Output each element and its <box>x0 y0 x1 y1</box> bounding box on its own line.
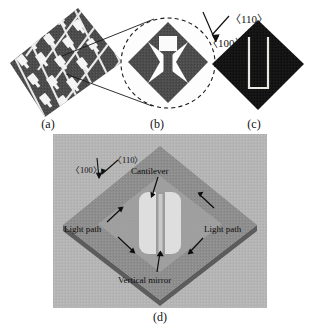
figure-vector-layer: 〈110〉 〈100〉 <box>0 0 319 331</box>
direction-label-100-c: 〈100〉 <box>207 37 246 49</box>
panel-d-etched-region <box>98 176 222 272</box>
panel-c-substrate <box>212 20 304 110</box>
panel-d-platform <box>63 146 257 300</box>
crystal-axes-c: 〈110〉 〈100〉 <box>203 12 268 49</box>
direction-label-110-d: 〈110〉 <box>113 155 143 165</box>
annotation-vertical-mirror: Vertical mirror <box>118 275 171 285</box>
figure-root: 〈110〉 〈100〉 <box>0 0 319 331</box>
panel-c-u-slot <box>249 37 268 88</box>
panel-b-quadrant-membranes <box>128 22 208 103</box>
panel-c-dark-diamond <box>212 20 304 110</box>
arrowhead-100-c <box>212 35 219 42</box>
callout-lines <box>62 19 154 106</box>
panel-a-array <box>6 0 134 132</box>
arrowhead-110-d <box>101 169 106 175</box>
panel-d-vertical-mirror-body <box>156 192 165 254</box>
annotation-cantilever: Cantilever <box>131 166 169 176</box>
panel-d-background <box>53 134 267 308</box>
crystal-axes-d: 〈100〉 〈110〉 <box>71 155 143 179</box>
panel-b-detail <box>121 18 215 108</box>
panel-caption-a: (a) <box>28 118 68 130</box>
panel-b-cantilever <box>159 36 177 75</box>
panel-d-released-structure <box>139 192 181 254</box>
panel-d-annotation-arrows <box>107 177 214 272</box>
direction-label-110-c: 〈110〉 <box>230 13 268 25</box>
panel-a-substrate <box>10 8 122 117</box>
panel-caption-d: (d) <box>140 311 180 323</box>
arrowhead-100-d <box>96 173 103 179</box>
arrowhead-110-c <box>212 34 220 40</box>
panel-a-cells <box>6 0 134 132</box>
annotation-light-path-right: Light path <box>204 224 242 234</box>
annotation-light-path-left: Light path <box>64 224 102 234</box>
panel-b-vertical-mirror <box>164 53 173 75</box>
panel-a-device-features <box>16 13 102 112</box>
panel-d-micrograph: 〈100〉 〈110〉 Cantilever <box>53 134 267 308</box>
panel-d-arrowheads <box>118 192 204 257</box>
panel-caption-b: (b) <box>137 118 177 130</box>
panel-d-substrate-edge <box>63 225 257 306</box>
magnifier-dashed-ellipse <box>121 18 215 108</box>
direction-label-100-d: 〈100〉 <box>71 165 102 175</box>
panel-caption-c: (c) <box>234 118 274 130</box>
panel-d-mirror-facet <box>159 194 163 252</box>
